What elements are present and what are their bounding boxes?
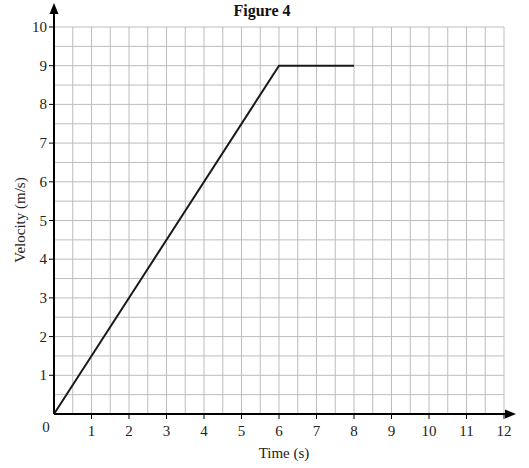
- x-tick-label: 3: [163, 423, 171, 439]
- tick-labels: 12345678910111212345678910: [32, 19, 512, 439]
- x-tick-label: 6: [275, 423, 283, 439]
- x-tick-label: 7: [313, 423, 321, 439]
- origin-label: 0: [42, 419, 50, 435]
- x-tick-label: 4: [200, 423, 208, 439]
- x-axis-label: Time (s): [259, 445, 310, 462]
- y-tick-label: 7: [40, 135, 48, 151]
- x-tick-label: 10: [422, 423, 437, 439]
- y-tick-label: 9: [40, 58, 48, 74]
- y-tick-label: 6: [40, 174, 48, 190]
- x-tick-label: 11: [459, 423, 473, 439]
- y-tick-label: 2: [40, 329, 48, 345]
- y-axis-arrow-icon: [50, 3, 59, 14]
- y-tick-label: 3: [40, 290, 48, 306]
- y-tick-label: 10: [32, 19, 47, 35]
- y-tick-label: 4: [40, 251, 48, 267]
- ticks: [49, 27, 504, 419]
- y-tick-label: 1: [40, 367, 48, 383]
- chart-title: Figure 4: [233, 2, 290, 20]
- y-axis-label: Velocity (m/s): [12, 177, 29, 262]
- y-tick-label: 8: [40, 96, 48, 112]
- x-tick-label: 5: [238, 423, 246, 439]
- x-tick-label: 9: [388, 423, 396, 439]
- x-tick-label: 8: [350, 423, 358, 439]
- y-tick-label: 5: [40, 213, 48, 229]
- x-axis-arrow-icon: [505, 410, 516, 419]
- grid: [54, 27, 504, 414]
- x-tick-label: 2: [125, 423, 133, 439]
- x-tick-label: 1: [88, 423, 96, 439]
- x-tick-label: 12: [497, 423, 512, 439]
- velocity-time-chart: Figure 4 12345678910111212345678910 0 Ti…: [0, 0, 529, 468]
